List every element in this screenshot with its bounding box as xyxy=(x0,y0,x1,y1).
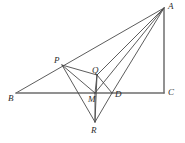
point-label-p: P xyxy=(54,56,60,65)
point-label-q: Q xyxy=(92,66,99,75)
segment-A-D xyxy=(112,8,164,93)
point-label-m: M xyxy=(88,95,96,104)
segments-group xyxy=(16,8,164,122)
point-label-b: B xyxy=(8,94,14,103)
point-label-r: R xyxy=(91,126,97,135)
geometry-figure: ABCPQMDR xyxy=(0,0,185,143)
segment-A-Q xyxy=(97,8,164,75)
segment-D-R xyxy=(95,93,112,122)
point-label-d: D xyxy=(115,90,122,99)
segment-P-M xyxy=(62,65,95,93)
point-label-c: C xyxy=(168,88,174,97)
segment-Q-D xyxy=(97,75,112,93)
segment-B-A xyxy=(16,8,164,93)
point-label-a: A xyxy=(168,2,174,11)
segment-A-M xyxy=(95,8,164,93)
